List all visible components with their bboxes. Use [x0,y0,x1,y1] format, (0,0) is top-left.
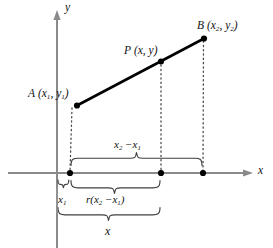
point-p-label: P (x, y) [124,45,158,57]
brace-x1 [58,180,69,188]
brace-r-x2-minus-x1 [71,181,160,194]
foot-a-marker [67,170,73,176]
brace-x2-minus-x1-label: x2 −x1 [114,139,141,150]
point-a-label: A (x1, y1) [28,88,69,100]
foot-p-marker [158,170,164,176]
braces-group [58,153,202,221]
brace-x-label: x [105,225,110,237]
point-a-marker [74,102,80,108]
geometry-figure: y x B (x2, y2) P (x, y) A (x1, y1) x2 −x… [0,0,273,248]
point-p-marker [158,59,164,65]
projection-line-b [203,41,204,171]
brace-x2-minus-x1 [71,153,202,166]
brace-r-x2-minus-x1-label: r(x2 −x1) [86,194,124,205]
foot-b-marker [200,170,206,176]
y-axis-arrow [53,10,60,20]
x-axis-arrow [243,169,253,176]
y-axis-label: y [65,2,70,14]
point-b-marker [201,35,207,41]
diagram-canvas [0,0,273,248]
projection-lines-group [70,41,204,171]
x-axis-label: x [258,165,263,177]
brace-x [58,208,160,221]
brace-x1-label: x1 [58,194,66,205]
point-b-label: B (x2, y2) [197,20,238,32]
